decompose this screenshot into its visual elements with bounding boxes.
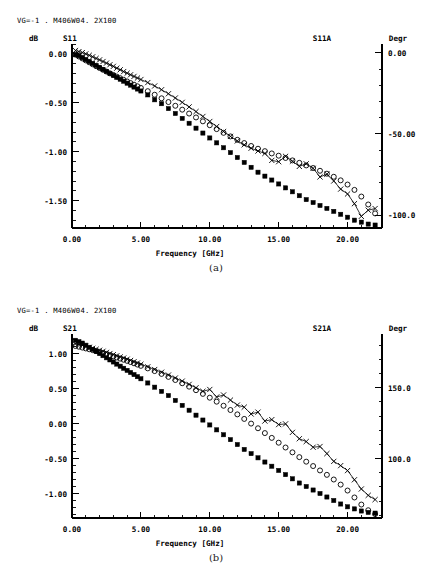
data-series-cross bbox=[73, 48, 378, 219]
data-series-filled-square bbox=[73, 53, 377, 227]
figure-a-container: VG=-1 . M406W04. 2X100 dB S11 S11A Degr … bbox=[0, 0, 432, 290]
chart-b-right-unit: Degr bbox=[389, 324, 408, 333]
x-tick-label: 10.00 bbox=[198, 525, 221, 534]
data-series-circle bbox=[73, 344, 378, 517]
y-left-tick-label: -1.00 bbox=[44, 490, 67, 499]
figure-b-caption: (b) bbox=[0, 552, 432, 563]
data-series-circle bbox=[73, 52, 378, 216]
y-right-tick-label: 150.0 bbox=[388, 384, 411, 393]
y-right-tick-label: 0.00 bbox=[388, 49, 407, 58]
y-left-tick-label: 0.00 bbox=[49, 420, 68, 429]
y-left-tick-label: 0.00 bbox=[49, 50, 68, 59]
chart-a-xlabel: Frequency [GHz] bbox=[156, 249, 225, 258]
y-right-tick-label: 100.0 bbox=[388, 455, 411, 464]
y-left-tick-label: -1.50 bbox=[44, 197, 67, 206]
y-left-tick-label: -0.50 bbox=[44, 99, 67, 108]
x-tick-label: 0.00 bbox=[63, 525, 82, 534]
chart-b-plot: VG=-1 . M406W04. 2X100 dB S21 S21A Degr … bbox=[0, 290, 432, 552]
x-tick-label: 20.00 bbox=[336, 525, 359, 534]
x-tick-label: 5.00 bbox=[132, 525, 151, 534]
chart-a-right-series-label: S11A bbox=[313, 34, 332, 43]
x-tick-label: 0.00 bbox=[63, 235, 82, 244]
chart-a-left-unit: dB bbox=[29, 34, 39, 43]
y-right-tick-label: -100.0 bbox=[388, 211, 416, 220]
x-tick-label: 15.00 bbox=[267, 235, 290, 244]
y-left-tick-label: 1.00 bbox=[49, 350, 68, 359]
x-tick-label: 5.00 bbox=[132, 235, 151, 244]
x-tick-label: 10.00 bbox=[198, 235, 221, 244]
chart-b-xlabel: Frequency [GHz] bbox=[156, 539, 225, 548]
chart-a-header: VG=-1 . M406W04. 2X100 bbox=[17, 16, 117, 25]
x-tick-label: 20.00 bbox=[336, 235, 359, 244]
y-right-tick-label: -50.00 bbox=[388, 130, 416, 139]
figure-a-caption: (a) bbox=[0, 262, 432, 273]
chart-a-left-series-label: S11 bbox=[63, 34, 77, 43]
chart-b-data-layer bbox=[73, 338, 378, 516]
y-left-tick-label: -0.50 bbox=[44, 455, 67, 464]
chart-b-header: VG=-1 . M406W04. 2X100 bbox=[17, 306, 117, 315]
y-left-tick-label: -1.00 bbox=[44, 148, 67, 157]
y-left-tick-label: 0.50 bbox=[49, 385, 68, 394]
chart-b-right-series-label: S21A bbox=[313, 324, 332, 333]
chart-b-axes bbox=[72, 334, 382, 518]
chart-b-left-series-label: S21 bbox=[63, 324, 77, 333]
chart-a-right-unit: Degr bbox=[389, 34, 408, 43]
chart-a-plot: VG=-1 . M406W04. 2X100 dB S11 S11A Degr … bbox=[0, 0, 432, 262]
data-series-filled-square bbox=[73, 338, 377, 515]
chart-b-left-unit: dB bbox=[29, 324, 39, 333]
figure-b-container: VG=-1 . M406W04. 2X100 dB S21 S21A Degr … bbox=[0, 290, 432, 580]
chart-a-data-layer bbox=[73, 48, 378, 227]
x-tick-label: 15.00 bbox=[267, 525, 290, 534]
chart-b-tick-labels: 0.005.0010.0015.0020.001.000.500.00-0.50… bbox=[44, 350, 411, 534]
